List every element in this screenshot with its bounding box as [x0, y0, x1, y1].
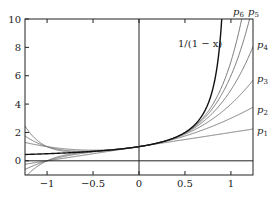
curve-labels: 1/(1 − x)p6p5p4p3p2p1 — [178, 6, 268, 138]
y-tick-label: 10 — [8, 14, 21, 25]
label-p2: p2 — [257, 104, 268, 117]
x-tick-label: −0.5 — [81, 178, 105, 189]
x-tick-label: 0 — [136, 178, 142, 189]
label-p4: p4 — [257, 39, 268, 52]
x-tick-label: −1 — [40, 178, 55, 189]
label-function: 1/(1 − x) — [178, 38, 222, 49]
taylor-polynomial-chart: −1−0.500.51 0246810 1/(1 − x)p6p5p4p3p2p… — [0, 0, 279, 197]
y-tick-label: 4 — [15, 99, 21, 110]
label-p3: p3 — [257, 73, 268, 86]
x-tick-label: 1 — [228, 178, 234, 189]
y-tick-label: 6 — [15, 70, 21, 81]
label-p1: p1 — [257, 125, 268, 138]
y-tick-label: 0 — [15, 155, 21, 166]
y-tick-label: 8 — [15, 42, 21, 53]
x-tick-label: 0.5 — [177, 178, 193, 189]
y-axis-ticks: 0246810 — [8, 14, 29, 167]
label-p5: p5 — [248, 6, 259, 19]
y-tick-label: 2 — [15, 127, 21, 138]
label-p6: p6 — [233, 6, 244, 19]
